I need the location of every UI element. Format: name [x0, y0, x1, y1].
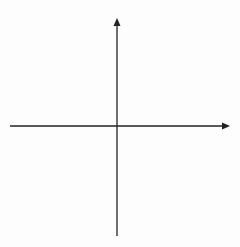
y-axis-arrow-icon: [114, 18, 121, 26]
axes: [10, 18, 230, 236]
coordinate-plane: [0, 0, 240, 247]
x-axis-arrow-icon: [222, 123, 230, 130]
